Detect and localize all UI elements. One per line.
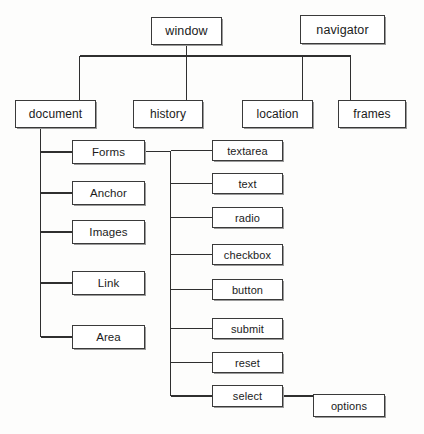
node-location[interactable]: location [242, 100, 313, 128]
node-button-label: button [232, 284, 263, 296]
node-navigator[interactable]: navigator [300, 15, 385, 44]
node-location-label: location [256, 107, 298, 121]
node-frames-label: frames [353, 107, 390, 121]
node-history[interactable]: history [133, 100, 203, 128]
node-textarea-label: textarea [227, 145, 268, 157]
node-images[interactable]: Images [72, 220, 145, 244]
node-textarea[interactable]: textarea [212, 140, 283, 161]
node-images-label: Images [89, 226, 127, 238]
node-text-label: text [238, 178, 256, 190]
node-frames[interactable]: frames [338, 100, 406, 128]
node-forms[interactable]: Forms [72, 140, 145, 164]
node-link[interactable]: Link [72, 271, 145, 295]
node-submit-label: submit [231, 323, 264, 335]
node-reset[interactable]: reset [212, 352, 283, 373]
node-navigator-label: navigator [316, 23, 368, 37]
node-forms-label: Forms [92, 146, 125, 158]
node-anchor-label: Anchor [90, 187, 127, 199]
node-radio-label: radio [235, 212, 260, 224]
node-radio[interactable]: radio [212, 207, 283, 228]
node-history-label: history [150, 107, 186, 121]
node-document[interactable]: document [15, 100, 96, 128]
node-options-label: options [331, 400, 367, 412]
node-checkbox-label: checkbox [224, 249, 271, 261]
node-checkbox[interactable]: checkbox [212, 244, 283, 265]
node-area[interactable]: Area [72, 325, 145, 349]
node-link-label: Link [98, 277, 120, 289]
node-text[interactable]: text [212, 173, 283, 194]
node-area-label: Area [96, 331, 121, 343]
node-button[interactable]: button [212, 279, 283, 300]
node-window-label: window [165, 24, 207, 38]
node-document-label: document [29, 107, 83, 121]
node-submit[interactable]: submit [212, 318, 283, 339]
node-select[interactable]: select [212, 385, 283, 407]
object-hierarchy-diagram: window navigator document history locati… [0, 0, 424, 434]
node-reset-label: reset [235, 357, 260, 369]
node-anchor[interactable]: Anchor [72, 181, 145, 205]
node-window[interactable]: window [151, 17, 222, 45]
node-select-label: select [233, 390, 262, 402]
node-options[interactable]: options [313, 394, 385, 417]
